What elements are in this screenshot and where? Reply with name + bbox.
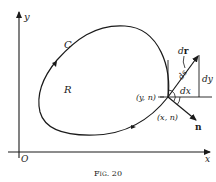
figure-caption: Fig. 20 [94, 169, 122, 178]
dy-label: dy [202, 74, 214, 84]
angle-arc-x-n [177, 97, 180, 105]
green-theorem-figure: y x O C R dr ds dy dx (y, n) (x, n) n Fi… [0, 0, 216, 182]
dr-pointer-arc [183, 56, 185, 68]
normal-label: n [195, 122, 202, 132]
angle-x-n-label: (x, n) [157, 113, 178, 122]
x-axis-label: x [205, 154, 210, 164]
angle-y-n-label: (y, n) [136, 93, 156, 102]
origin-label: O [21, 154, 29, 164]
curve-label: C [64, 39, 72, 50]
dx-label: dx [180, 86, 191, 96]
region-label: R [63, 84, 72, 95]
dr-label: dr [178, 46, 189, 56]
y-axis-label: y [23, 11, 30, 22]
curve-c [39, 26, 169, 135]
